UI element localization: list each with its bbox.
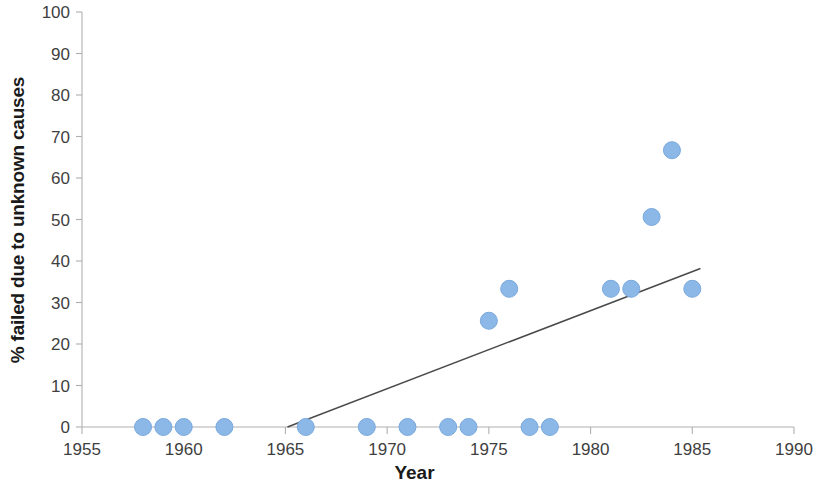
y-tick-label-group: 0102030405060708090100 — [42, 3, 70, 437]
x-tick-label: 1960 — [165, 440, 203, 459]
data-point — [643, 209, 660, 226]
scatter-chart: % failed due to unknown causes 010203040… — [0, 0, 815, 498]
plot-area: 0102030405060708090100 19551960196519701… — [0, 0, 815, 498]
y-tick-label: 10 — [51, 377, 70, 396]
x-axis-title-text: Year — [394, 462, 434, 484]
data-point — [521, 419, 538, 436]
data-point — [135, 419, 152, 436]
data-point — [460, 419, 477, 436]
y-tick-label: 40 — [51, 252, 70, 271]
data-point — [480, 312, 497, 329]
x-tick-label: 1970 — [368, 440, 406, 459]
data-point — [663, 142, 680, 159]
x-axis-title: Year — [0, 462, 815, 484]
data-point — [175, 419, 192, 436]
data-point — [358, 419, 375, 436]
data-point — [297, 419, 314, 436]
y-tick-label: 20 — [51, 335, 70, 354]
y-tick-label: 90 — [51, 45, 70, 64]
y-tick-label: 50 — [51, 211, 70, 230]
y-tick-label: 0 — [61, 418, 70, 437]
y-tick-label: 70 — [51, 128, 70, 147]
y-tick-label: 100 — [42, 3, 70, 22]
data-point — [623, 280, 640, 297]
y-tick-label: 80 — [51, 86, 70, 105]
data-point — [155, 419, 172, 436]
data-point — [399, 419, 416, 436]
x-tick-label: 1980 — [572, 440, 610, 459]
x-tick-label: 1985 — [673, 440, 711, 459]
y-tick-label: 60 — [51, 169, 70, 188]
data-point — [602, 280, 619, 297]
x-tick-label: 1990 — [775, 440, 813, 459]
data-point — [440, 419, 457, 436]
x-tick-label: 1975 — [470, 440, 508, 459]
data-point-group — [135, 142, 701, 436]
data-point — [216, 419, 233, 436]
x-tick-label: 1955 — [63, 440, 101, 459]
y-tick-label: 30 — [51, 294, 70, 313]
data-point — [501, 280, 518, 297]
x-tick-label: 1965 — [267, 440, 305, 459]
x-tick-label-group: 19551960196519701975198019851990 — [63, 440, 813, 459]
data-point — [541, 419, 558, 436]
data-point — [684, 280, 701, 297]
